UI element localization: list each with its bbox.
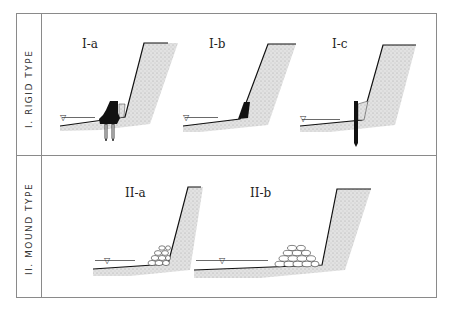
panel-I-c: I-c ▽ <box>300 37 416 147</box>
water-level-icon: ▽ <box>104 256 111 265</box>
panel-label: I-a <box>82 37 98 51</box>
water-level-icon: ▽ <box>183 113 190 122</box>
panel-I-b: I-b ▽ <box>183 37 296 132</box>
panel-label: I-b <box>209 37 226 51</box>
panel-label: I-c <box>332 37 348 51</box>
diagram: I. RIGID TYPE II. MOUND TYPE I-a ▽ I-b ▽… <box>0 0 451 311</box>
section-label-rigid: I. RIGID TYPE <box>24 50 34 128</box>
rubble-mound <box>148 246 171 266</box>
panel-I-a: I-a ▽ <box>60 37 178 141</box>
concrete-block <box>99 101 120 124</box>
panel-II-b: II-b ▽ <box>194 186 371 278</box>
panel-label: II-b <box>250 186 272 200</box>
panel-II-a: II-a ▽ <box>93 186 203 276</box>
frame <box>16 13 437 298</box>
panel-label: II-a <box>125 186 146 200</box>
water-level-icon: ▽ <box>300 114 307 123</box>
water-level-icon: ▽ <box>219 256 226 265</box>
water-level-icon: ▽ <box>60 113 67 122</box>
sheet-pile <box>354 101 358 143</box>
section-label-mound: II. MOUND TYPE <box>24 183 34 275</box>
rubble-mound <box>275 245 319 266</box>
